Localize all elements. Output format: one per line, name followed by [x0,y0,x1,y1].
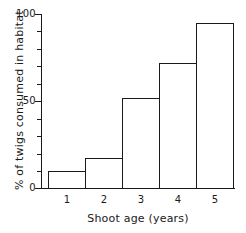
x-axis-line [41,188,235,189]
y-tick-30 [37,136,41,137]
y-tick-50 [35,101,41,102]
y-axis-line [41,14,42,189]
bar-category-4 [159,63,197,189]
y-tick-100 [35,14,41,15]
y-tick-90 [37,31,41,32]
y-tick-60 [37,84,41,85]
bar-category-5 [196,23,234,189]
x-axis-title: Shoot age (years) [41,213,235,225]
y-tick-40 [37,119,41,120]
y-tick-10 [37,171,41,172]
y-tick-80 [37,49,41,50]
bar-chart: % of twigs consumed in habitat 100 50 0 … [0,0,246,233]
bar-category-1 [48,171,86,189]
y-tick-70 [37,66,41,67]
x-tick-label-2: 2 [85,195,123,205]
y-tick-label-100: 100 [8,9,36,19]
bar-category-2 [85,158,123,189]
y-tick-20 [37,154,41,155]
bar-category-3 [122,98,160,189]
x-tick-label-5: 5 [196,195,234,205]
x-tick-label-3: 3 [122,195,160,205]
x-tick-label-1: 1 [48,195,86,205]
y-tick-label-0: 0 [8,183,36,193]
x-tick-label-4: 4 [159,195,197,205]
y-tick-label-50: 50 [8,96,36,106]
